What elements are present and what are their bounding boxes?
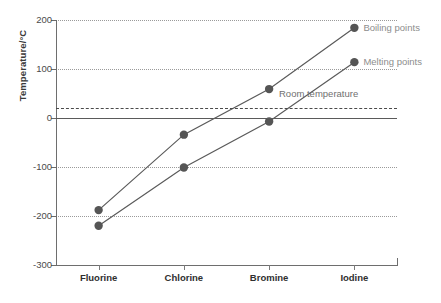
zero-line-line xyxy=(56,118,397,119)
data-point-boiling-fluorine xyxy=(94,206,102,214)
series-label-melting: Melting points xyxy=(363,56,422,67)
y-tick-label--100: -100 xyxy=(16,161,52,172)
data-point-melting-fluorine xyxy=(94,222,102,230)
data-point-melting-iodine xyxy=(350,58,358,66)
y-tick-label--200: -200 xyxy=(16,210,52,221)
room-temperature-line xyxy=(56,108,397,109)
x-tick-mark-bromine xyxy=(269,265,270,270)
x-tick-mark-iodine xyxy=(354,265,355,270)
y-tick-label-200: 200 xyxy=(16,14,52,25)
y-tick-label-100: 100 xyxy=(16,63,52,74)
y-tick-label--300: -300 xyxy=(16,259,52,270)
x-tick-label-bromine: Bromine xyxy=(224,272,314,283)
x-tick-mark-chlorine xyxy=(184,265,185,270)
x-tick-mark-fluorine xyxy=(99,265,100,270)
data-point-melting-chlorine xyxy=(180,163,188,171)
data-point-boiling-chlorine xyxy=(180,130,188,138)
data-point-boiling-bromine xyxy=(265,85,273,93)
x-axis-line xyxy=(56,265,397,266)
room-temperature-label: Room temperature xyxy=(279,88,358,99)
x-tick-label-chlorine: Chlorine xyxy=(139,272,229,283)
plot-area: 2001000-100-200-300 FluorineChlorineBrom… xyxy=(56,20,397,265)
y-tick-label-0: 0 xyxy=(16,112,52,123)
series-line-melting xyxy=(99,62,355,226)
x-axis-end-cap xyxy=(397,258,398,266)
x-tick-label-fluorine: Fluorine xyxy=(54,272,144,283)
chart-figure: Temperature/°C 2001000-100-200-300 Fluor… xyxy=(0,0,441,303)
series-group xyxy=(56,20,397,265)
x-tick-label-iodine: Iodine xyxy=(309,272,399,283)
data-point-boiling-iodine xyxy=(350,24,358,32)
series-label-boiling: Boiling points xyxy=(363,22,420,33)
